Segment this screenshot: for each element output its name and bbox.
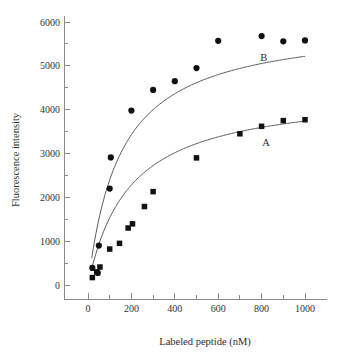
data-point-b [259,33,265,39]
data-point-b [128,107,134,113]
y-tick-label: 4000 [40,104,60,115]
data-point-a [142,204,148,210]
data-point-a [259,124,265,130]
figure-container: 0100020003000400050006000 02004006008001… [0,0,342,352]
data-point-b [215,38,221,44]
x-axis-title: Labeled peptide (nM) [159,336,251,348]
x-tick-label: 200 [124,303,139,314]
y-tick-label: 6000 [40,17,60,28]
y-tick-label: 5000 [40,60,60,71]
series-label-a: A [262,137,270,148]
data-point-b [172,78,178,84]
data-point-b [107,185,113,191]
y-tick-label: 1000 [40,236,60,247]
data-point-b [108,154,114,160]
data-point-b [150,87,156,93]
data-point-a [150,189,156,195]
data-point-a [130,221,136,227]
data-point-a [281,118,287,124]
data-point-b [280,38,286,44]
data-point-a [194,155,200,161]
data-point-b [302,37,308,43]
x-tick-label: 800 [254,303,269,314]
data-point-a [302,117,308,123]
data-point-b [96,242,102,248]
y-tick-label: 0 [55,280,60,291]
data-point-b [89,265,95,271]
y-axis-title: Fluorescence intensity [10,112,21,207]
data-point-a [117,241,123,247]
data-point-a [237,131,243,137]
x-tick-label: 0 [86,303,91,314]
x-tick-label: 1000 [295,303,315,314]
y-tick-label: 3000 [40,148,60,159]
y-tick-label: 2000 [40,192,60,203]
data-point-b [193,65,199,71]
data-point-b [95,270,101,276]
series-label-b: B [260,52,267,63]
fluorescence-binding-chart: 0100020003000400050006000 02004006008001… [0,0,342,352]
data-point-a [97,264,103,270]
x-tick-label: 600 [211,303,226,314]
data-point-a [90,275,96,281]
data-point-a [107,246,113,252]
x-tick-label: 400 [167,303,182,314]
